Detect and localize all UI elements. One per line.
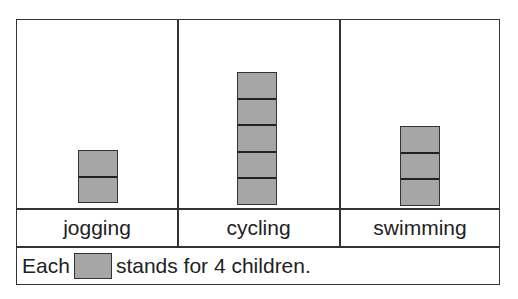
symbol-square [238, 100, 276, 127]
symbol-square [79, 178, 117, 203]
symbol-square [79, 151, 117, 178]
symbol-square [401, 127, 439, 154]
symbol-square [401, 180, 439, 205]
category-label-cycling: cycling [178, 209, 339, 246]
legend-key: Each stands for 4 children. [22, 247, 311, 285]
symbol-square [238, 73, 276, 100]
symbol-square [238, 153, 276, 180]
symbol-square [238, 126, 276, 153]
symbol-square-icon [74, 253, 112, 279]
symbol-stack-cycling [237, 72, 277, 205]
symbol-square [238, 179, 276, 204]
symbol-stack-swimming [400, 126, 440, 206]
symbol-stack-jogging [78, 150, 118, 203]
category-label-swimming: swimming [340, 209, 500, 246]
category-label-jogging: jogging [17, 209, 177, 246]
key-prefix: Each [22, 247, 70, 285]
key-suffix: stands for 4 children. [116, 247, 311, 285]
symbol-square [401, 154, 439, 181]
